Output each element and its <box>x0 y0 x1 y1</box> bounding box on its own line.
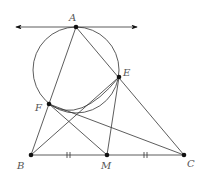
label-B: B <box>16 160 24 171</box>
point-C <box>182 153 187 158</box>
point-E <box>117 75 122 80</box>
point-B <box>29 153 34 158</box>
label-E: E <box>122 67 131 78</box>
geometry-diagram: A E F B M C <box>0 0 208 178</box>
point-M <box>105 153 110 158</box>
segment-BE <box>31 77 119 155</box>
point-A <box>74 25 79 30</box>
segment-AB <box>31 27 76 155</box>
label-M: M <box>100 160 112 171</box>
circle <box>33 27 119 113</box>
segment-AC <box>76 27 184 155</box>
segment-FC <box>49 104 184 155</box>
label-C: C <box>187 158 195 169</box>
label-A: A <box>68 12 76 23</box>
segment-FM <box>49 104 107 155</box>
arc-FE <box>49 77 119 110</box>
point-F <box>47 102 52 107</box>
label-F: F <box>34 102 43 113</box>
